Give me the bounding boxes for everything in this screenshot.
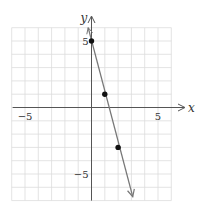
x-axis-label: x [188,101,195,115]
data-point [102,92,107,97]
coordinate-plane: xy −555−5 [0,0,203,205]
x-tick-label: −5 [18,111,33,122]
data-point [89,38,94,43]
x-tick-label: 5 [155,111,161,122]
y-axis-label: y [80,11,88,25]
plotted-line [87,28,135,197]
graph-line [88,28,133,197]
y-tick-label: −5 [74,169,89,180]
axes: xy [13,11,195,201]
data-point [115,145,120,150]
y-tick-label: 5 [82,36,88,47]
